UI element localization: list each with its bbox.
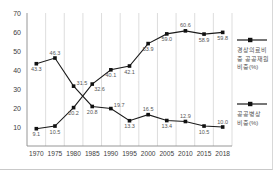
data-point-marker	[146, 42, 150, 46]
data-point-label: 60.6	[180, 22, 191, 28]
data-point-marker	[35, 127, 39, 131]
data-point-marker	[221, 125, 225, 129]
legend-line-marker-icon	[237, 100, 267, 108]
data-point-label: 12.9	[180, 113, 191, 119]
data-point-label: 13.4	[161, 123, 172, 129]
data-point-label: 53.9	[143, 46, 154, 52]
data-point-marker	[128, 119, 132, 123]
data-point-marker	[202, 124, 206, 128]
x-axis-tick-label: 1970	[29, 150, 44, 157]
data-point-label: 32.6	[94, 86, 105, 92]
data-point-marker	[165, 119, 169, 123]
x-axis-tick-label: 2018	[215, 150, 230, 157]
y-axis-tick-label: 20	[13, 105, 21, 112]
data-point-marker	[165, 32, 169, 36]
data-point-label: 10.5	[50, 129, 61, 135]
y-axis-tick-label: 30	[13, 86, 21, 93]
data-point-label: 10.5	[199, 129, 210, 135]
legend-entry-public-funding: 경상의료비 중 공공재원 비중(%)	[237, 36, 273, 72]
data-point-marker	[53, 124, 57, 128]
data-point-label: 43.3	[31, 66, 42, 72]
legend-line-marker-icon	[237, 36, 267, 44]
x-axis-tick-label: 2005	[159, 150, 174, 157]
data-point-marker	[72, 106, 76, 110]
legend-label: 경상의료비 중 공공재원 비중(%)	[237, 46, 273, 72]
x-axis-tick-label: 1980	[66, 150, 81, 157]
x-axis-tick-label: 1990	[104, 150, 119, 157]
chart-panel: 1020304050607019701975198019851990199520…	[0, 0, 273, 170]
line-chart-canvas: 1020304050607019701975198019851990199520…	[0, 0, 273, 170]
data-point-label: 58.9	[199, 37, 210, 43]
y-axis-tick-label: 50	[13, 48, 21, 55]
y-axis-tick-label: 70	[13, 10, 21, 17]
data-point-marker	[53, 56, 57, 60]
data-point-marker	[72, 84, 76, 88]
data-point-label: 59.0	[161, 36, 172, 42]
data-point-marker	[221, 31, 225, 35]
x-axis-tick-label: 2000	[141, 150, 156, 157]
data-point-label: 40.1	[106, 72, 117, 78]
data-point-marker	[109, 68, 113, 72]
data-point-label: 46.3	[50, 50, 61, 56]
data-point-marker	[184, 29, 188, 33]
data-point-marker	[202, 32, 206, 36]
data-point-marker	[128, 64, 132, 68]
data-point-label: 19.7	[114, 102, 125, 108]
x-axis-tick-label: 2010	[178, 150, 193, 157]
x-axis-tick-label: 1975	[48, 150, 63, 157]
data-point-marker	[35, 62, 39, 66]
data-point-label: 20.8	[87, 109, 98, 115]
data-point-label: 31.5	[77, 80, 88, 86]
y-axis-tick-label: 60	[13, 29, 21, 36]
x-axis-tick-label: 1985	[85, 150, 100, 157]
legend-entry-public-beds: 공공병상 비중(%)	[237, 100, 273, 127]
data-point-label: 10.0	[217, 119, 228, 125]
y-axis-tick-label: 40	[13, 67, 21, 74]
data-point-label: 59.8	[217, 35, 228, 41]
data-point-marker	[109, 107, 113, 111]
x-axis-tick-label: 1995	[122, 150, 137, 157]
data-point-marker	[184, 120, 188, 124]
data-point-marker	[90, 105, 94, 109]
legend-label: 공공병상 비중(%)	[237, 110, 273, 127]
data-point-label: 16.5	[143, 106, 154, 112]
data-point-label: 13.3	[124, 123, 135, 129]
data-point-marker	[146, 113, 150, 117]
y-axis-tick-label: 10	[13, 124, 21, 131]
data-point-label: 42.1	[124, 69, 135, 75]
data-point-label: 20.2	[68, 110, 79, 116]
x-axis-tick-label: 2015	[197, 150, 212, 157]
data-point-label: 9.1	[32, 131, 40, 137]
